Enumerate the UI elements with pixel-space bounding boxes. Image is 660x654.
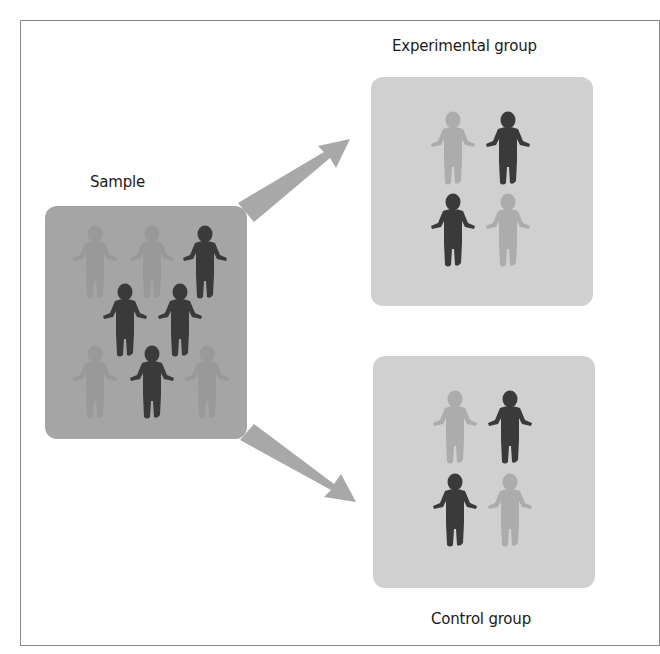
person-light-icon	[430, 390, 480, 466]
person-dark-icon	[483, 111, 533, 187]
person-light-icon	[483, 193, 533, 269]
arrow-to-experimental-icon	[238, 139, 350, 222]
person-light-icon	[70, 345, 120, 421]
control-group-box	[373, 356, 595, 588]
person-dark-icon	[428, 193, 478, 269]
person-light-icon	[428, 111, 478, 187]
arrow-to-control-icon	[240, 424, 356, 502]
person-dark-icon	[127, 345, 177, 421]
person-dark-icon	[430, 473, 480, 549]
experimental-group-box	[371, 77, 593, 306]
person-light-icon	[485, 473, 535, 549]
person-dark-icon	[485, 390, 535, 466]
person-light-icon	[182, 345, 232, 421]
